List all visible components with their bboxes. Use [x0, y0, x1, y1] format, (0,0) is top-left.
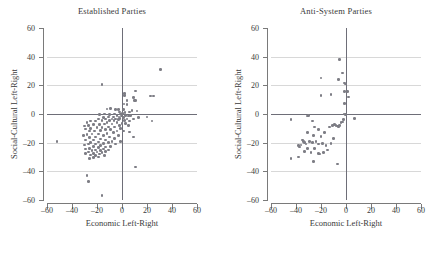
- y-axis-tick: [263, 28, 268, 29]
- y-axis-label: Social-Cultural Left-Right: [8, 28, 20, 200]
- scatter-point: [113, 119, 116, 122]
- y-axis-tick: [263, 85, 268, 86]
- scatter-point: [89, 120, 92, 123]
- scatter-point: [323, 131, 326, 134]
- scatter-point: [92, 139, 95, 142]
- scatter-point: [297, 156, 300, 159]
- x-axis-tick-label: 60: [417, 206, 425, 215]
- scatter-point: [313, 147, 316, 150]
- y-axis-tick-label: 0: [31, 110, 35, 119]
- panel-title: Established Parties: [0, 6, 224, 16]
- x-axis-tick-label: 20: [367, 206, 375, 215]
- scatter-point: [112, 131, 115, 134]
- x-axis-tick-label: –60: [265, 206, 277, 215]
- scatter-point: [303, 150, 306, 153]
- scatter-point: [312, 160, 315, 163]
- x-axis-tick-label: –20: [315, 206, 327, 215]
- scatter-point: [325, 144, 328, 147]
- y-axis-tick-label: 20: [27, 81, 35, 90]
- plot-area: Economic Left-Right –60–40–200204060–60–…: [47, 28, 197, 200]
- x-axis-label: Economic Left-Right: [271, 218, 421, 228]
- y-axis-tick-label: –60: [247, 196, 259, 205]
- scatter-point: [347, 96, 350, 99]
- scatter-point: [322, 151, 325, 154]
- scatter-point: [126, 103, 129, 106]
- y-axis-tick: [39, 200, 44, 201]
- scatter-point: [107, 141, 110, 144]
- scatter-point: [317, 143, 320, 146]
- scatter-point: [99, 129, 102, 132]
- scatter-point: [84, 148, 87, 151]
- scatter-point: [128, 120, 131, 123]
- y-axis-tick: [263, 114, 268, 115]
- scatter-point: [306, 147, 309, 150]
- x-axis-tick-label: 0: [344, 206, 348, 215]
- x-axis-tick-label: –40: [66, 206, 78, 215]
- scatter-point: [344, 83, 347, 86]
- scatter-point: [353, 117, 356, 120]
- scatter-point: [106, 121, 109, 124]
- y-axis-label-text: Social-Cultural Left-Right: [9, 69, 19, 159]
- scatter-point: [92, 156, 95, 159]
- scatter-point: [306, 131, 309, 134]
- scatter-point: [101, 194, 104, 197]
- scatter-point: [343, 102, 346, 105]
- scatter-point: [338, 58, 341, 61]
- scatter-point: [151, 120, 154, 123]
- y-axis-tick-label: –60: [23, 196, 35, 205]
- scatter-point: [109, 107, 112, 110]
- scatter-point: [106, 132, 109, 135]
- scatter-point: [114, 143, 117, 146]
- y-axis-tick-label: 0: [255, 110, 259, 119]
- scatter-point: [311, 141, 314, 144]
- scatter-point: [91, 133, 94, 136]
- scatter-point: [134, 99, 137, 102]
- scatter-point: [87, 151, 90, 154]
- x-axis-label: Economic Left-Right: [47, 218, 197, 228]
- scatter-point: [104, 150, 107, 153]
- panel-title: Anti-System Parties: [224, 6, 448, 16]
- scatter-point: [290, 157, 293, 160]
- scatter-point: [97, 141, 100, 144]
- scatter-point: [84, 139, 87, 142]
- scatter-point: [113, 126, 116, 129]
- y-axis-tick-label: –40: [247, 167, 259, 176]
- y-axis-tick: [39, 85, 44, 86]
- scatter-point: [129, 114, 132, 117]
- scatter-point: [88, 136, 91, 139]
- scatter-point: [159, 68, 162, 71]
- scatter-point: [337, 78, 340, 81]
- scatter-point: [127, 115, 130, 118]
- scatter-point: [121, 122, 124, 125]
- plot-area: Economic Left-Right –60–40–200204060–60–…: [271, 28, 421, 200]
- scatter-point: [111, 123, 114, 126]
- scatter-point: [330, 93, 333, 96]
- scatter-point: [123, 103, 126, 106]
- scatter-point: [321, 142, 324, 145]
- scatter-point: [103, 154, 106, 157]
- scatter-point: [99, 144, 102, 147]
- x-axis-tick-label: 40: [168, 206, 176, 215]
- scatter-point: [119, 140, 122, 143]
- scatter-point: [56, 140, 59, 143]
- scatter-point: [107, 116, 110, 119]
- scatter-point: [94, 136, 97, 139]
- y-axis-tick-label: –20: [23, 138, 35, 147]
- scatter-point: [346, 90, 349, 93]
- scatter-point: [107, 149, 110, 152]
- scatter-point: [108, 136, 111, 139]
- y-axis-tick-label: 60: [27, 24, 35, 33]
- scatter-point: [127, 124, 130, 127]
- scatter-point: [99, 138, 102, 141]
- scatter-point: [88, 157, 91, 160]
- scatter-point: [310, 151, 313, 154]
- scatter-point: [97, 156, 100, 159]
- scatter-point: [331, 124, 334, 127]
- y-axis-tick-label: 40: [251, 52, 259, 61]
- scatter-point: [146, 116, 149, 119]
- y-axis-tick: [39, 114, 44, 115]
- x-axis-tick-label: 60: [193, 206, 201, 215]
- scatter-point: [132, 136, 135, 139]
- scatter-point: [312, 134, 315, 137]
- y-axis-tick: [263, 200, 268, 201]
